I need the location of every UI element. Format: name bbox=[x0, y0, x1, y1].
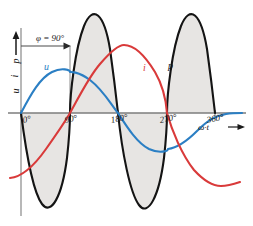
curve-label-i: i bbox=[143, 63, 146, 73]
curve-label-u: u bbox=[44, 62, 49, 72]
y-axis-label-i: i bbox=[10, 75, 20, 78]
power-fill-lobe-4 bbox=[167, 15, 215, 113]
phase-shift-label: φ = 90° bbox=[36, 34, 64, 43]
y-axis-label-p: p bbox=[10, 59, 20, 64]
power-waveform-figure: p i u φ = 90° u i p 0° 90° 180° 270° 360… bbox=[0, 0, 253, 226]
y-axis-label-stack: p i u bbox=[8, 56, 22, 96]
phi-measure-line bbox=[21, 43, 71, 50]
y-axis-arrow-icon bbox=[13, 31, 20, 55]
omega-t-arrow-icon bbox=[228, 124, 245, 130]
y-axis-label-u: u bbox=[10, 89, 20, 94]
x-tick-label-0: 0° bbox=[22, 115, 32, 125]
curve-label-p: p bbox=[168, 61, 173, 71]
x-axis-label-omega-t: ω·t bbox=[198, 122, 209, 132]
